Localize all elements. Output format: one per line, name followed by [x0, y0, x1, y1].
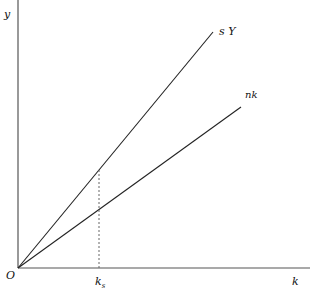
x-axis-label: k [292, 275, 299, 288]
y-axis-label: y [3, 8, 11, 21]
break-even-line [18, 107, 241, 268]
break-even-line-label: nk [245, 89, 258, 100]
savings-curve-label: s Y [219, 25, 237, 38]
steady-state-subscript: s [102, 282, 106, 290]
steady-state-label: ks [95, 275, 106, 290]
origin-label: O [6, 269, 15, 282]
solow-diagram: y O k s Y nk ks [0, 0, 314, 293]
savings-curve-line [18, 32, 213, 268]
